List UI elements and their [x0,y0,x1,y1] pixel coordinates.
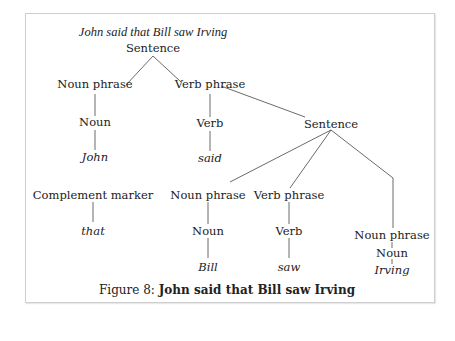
word-said: said [198,151,222,165]
word-saw: saw [278,260,301,274]
node-verb-phrase-1: Verb phrase [175,77,245,91]
caption-text: John said that Bill saw Irving [159,283,355,297]
node-verb-phrase-2: Verb phrase [254,188,324,202]
word-john: John [82,150,108,164]
word-bill: Bill [198,260,218,274]
word-irving: Irving [375,263,410,277]
node-verb-1: Verb [197,116,224,130]
node-sentence-root: Sentence [126,41,180,55]
caption-prefix: Figure 8: [99,283,159,297]
node-complement-marker: Complement marker [33,188,153,202]
node-noun-phrase-2: Noun phrase [170,188,245,202]
diagram-title: John said that Bill saw Irving [79,25,227,39]
figure-caption: Figure 8: John said that Bill saw Irving [99,283,355,297]
node-noun-3: Noun [376,246,408,260]
node-noun-phrase-1: Noun phrase [57,77,132,91]
node-noun-phrase-3: Noun phrase [354,228,429,242]
node-noun-1: Noun [79,115,111,129]
node-sentence-embedded: Sentence [304,117,358,131]
node-noun-2: Noun [192,224,224,238]
node-verb-2: Verb [276,224,303,238]
word-that: that [81,224,105,238]
